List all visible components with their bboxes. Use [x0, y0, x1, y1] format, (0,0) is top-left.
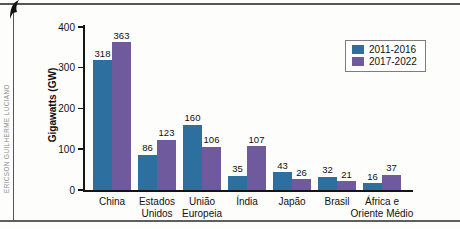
bar-value-label: 106	[204, 134, 220, 145]
bar-group: 3221Brasil	[318, 177, 356, 190]
bar-group: 35107Índia	[228, 146, 266, 190]
bar-2011-2016: 32	[318, 177, 337, 190]
bar-2017-2022: 123	[157, 140, 176, 190]
y-tick-label: 300	[47, 62, 75, 73]
legend-swatch	[352, 45, 364, 54]
legend-label: 2011-2016	[369, 44, 416, 55]
bar-value-label: 123	[159, 127, 175, 138]
legend-item: 2011-2016	[352, 44, 417, 55]
bar-value-label: 318	[95, 48, 111, 59]
legend-item: 2017-2022	[352, 56, 417, 67]
category-label: África e Oriente Médio	[338, 196, 426, 220]
bar-2017-2022: 107	[247, 146, 266, 190]
bar-value-label: 43	[277, 160, 288, 171]
bar-2011-2016: 160	[183, 125, 202, 190]
bar-2011-2016: 35	[228, 176, 247, 190]
y-tick-mark	[78, 148, 83, 150]
y-tick-label: 400	[47, 22, 75, 33]
y-tick-mark	[78, 189, 83, 191]
legend: 2011-20162017-2022	[345, 40, 426, 72]
bar-value-label: 32	[322, 164, 333, 175]
y-tick-label: 100	[47, 144, 75, 155]
credit-text: ERICSON GUILHERME LUCIANO	[3, 84, 10, 193]
bar-value-label: 363	[114, 30, 130, 41]
y-tick-label: 200	[47, 103, 75, 114]
y-tick-label: 0	[47, 185, 75, 196]
frame-bottom-line	[0, 220, 460, 222]
bar-value-label: 86	[142, 142, 153, 153]
bar-2011-2016: 43	[273, 172, 292, 190]
bar-group: 160106União Europeia	[183, 125, 221, 190]
bar-group: 86123Estados Unidos	[138, 140, 176, 190]
bar-value-label: 26	[296, 167, 307, 178]
bar-value-label: 37	[386, 162, 397, 173]
frame-left-line	[13, 4, 14, 221]
bar-2011-2016: 86	[138, 155, 157, 190]
bar-2017-2022: 37	[382, 175, 401, 190]
bar-group: 4326Japão	[273, 172, 311, 190]
figure-frame: ERICSON GUILHERME LUCIANO Gigawatts (GW)…	[0, 0, 460, 229]
bar-group: 1637África e Oriente Médio	[363, 175, 401, 190]
bar-2011-2016: 318	[93, 60, 112, 190]
bar-value-label: 35	[232, 163, 243, 174]
bar-value-label: 16	[367, 171, 378, 182]
y-tick-mark	[78, 67, 83, 69]
bar-value-label: 107	[249, 134, 265, 145]
bar-group: 318363China	[93, 42, 131, 190]
y-tick-mark	[78, 108, 83, 110]
corner-arrow-icon	[3, 0, 25, 21]
x-axis-line	[83, 190, 413, 192]
bar-value-label: 21	[341, 169, 352, 180]
bar-2017-2022: 363	[112, 42, 131, 190]
bar-2011-2016: 16	[363, 183, 382, 190]
legend-label: 2017-2022	[369, 56, 417, 67]
bar-value-label: 160	[185, 112, 201, 123]
y-tick-mark	[78, 26, 83, 28]
frame-top-line	[0, 3, 460, 5]
bar-2017-2022: 26	[292, 179, 311, 190]
legend-swatch	[352, 57, 364, 66]
bar-2017-2022: 106	[202, 147, 221, 190]
bar-2017-2022: 21	[337, 181, 356, 190]
